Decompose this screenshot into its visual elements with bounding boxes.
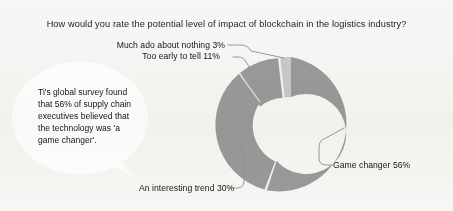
callout-bubble: Ti's global survey found that 56% of sup… <box>8 62 158 177</box>
label-too-early-to-tell: Too early to tell 11% <box>142 51 220 61</box>
label-much-ado-about-nothing: Much ado about nothing 3% <box>117 40 225 50</box>
infographic-page: How would you rate the potential level o… <box>0 0 453 211</box>
label-game-changer: Game changer 56% <box>333 160 410 170</box>
callout-text: Ti's global survey found that 56% of sup… <box>38 86 142 146</box>
label-an-interesting-trend: An interesting trend 30% <box>139 183 234 193</box>
